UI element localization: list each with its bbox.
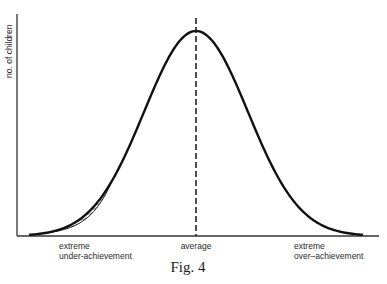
figure-caption: Fig. 4: [170, 259, 206, 275]
label-extreme-under-line1: extreme: [59, 241, 90, 251]
hatched-tail-region: [40, 179, 113, 234]
y-axis-label: no. of children: [4, 24, 14, 78]
figure-canvas: no. of children extreme under-achievemen…: [0, 0, 387, 284]
label-extreme-over-line1: extreme: [294, 241, 325, 251]
bell-curve: [30, 31, 362, 235]
label-extreme-over-line2: over–achievement: [294, 251, 364, 261]
label-average: average: [181, 241, 212, 251]
label-extreme-under-line2: under-achievement: [59, 251, 132, 261]
